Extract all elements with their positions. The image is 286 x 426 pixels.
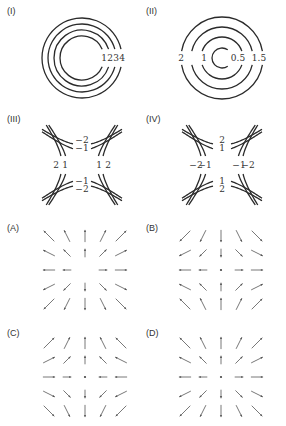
arrowhead-icon	[105, 269, 107, 271]
arrowhead-icon	[220, 396, 222, 398]
arrowhead-icon	[115, 376, 117, 378]
arrowhead-icon	[84, 415, 86, 417]
arrowhead-icon	[84, 289, 86, 291]
panel-II: (II) 210.51.5	[146, 6, 266, 99]
vector-arrow	[116, 231, 127, 242]
contour-labels-II: 210.51.5	[178, 53, 266, 63]
contour-level-label: 1	[219, 143, 225, 153]
contour-level-label: −2	[241, 160, 254, 170]
arrowhead-icon	[241, 269, 243, 271]
panel-label-B: (B)	[146, 223, 158, 233]
arrowhead-icon	[220, 283, 222, 285]
arrowhead-icon	[84, 230, 86, 232]
contour-level-label: 1	[62, 160, 68, 170]
arrowhead-icon	[220, 415, 222, 417]
center-dot	[220, 376, 222, 378]
vector-arrow	[180, 299, 191, 310]
arrowhead-icon	[125, 269, 127, 271]
arrowhead-icon	[199, 376, 201, 378]
panel-B: (B)	[146, 223, 263, 310]
panel-label-III: (III)	[7, 114, 21, 124]
vector-arrow	[180, 231, 191, 242]
arrowhead-icon	[53, 376, 55, 378]
center-dot	[84, 376, 86, 378]
panel-label-A: (A)	[7, 223, 19, 233]
vector-arrow	[180, 406, 191, 417]
panel-label-D: (D)	[146, 328, 159, 338]
arrowhead-icon	[69, 376, 71, 378]
contour-level-label: −1	[75, 143, 88, 153]
contour-hyperbolas-III: −2−1−1−22112	[42, 125, 122, 205]
panel-A: (A)	[7, 223, 127, 310]
panel-D: (D)	[146, 328, 263, 417]
panel-label-II: (II)	[146, 6, 157, 16]
vector-arrow	[252, 299, 263, 310]
contour-circle	[202, 65, 242, 79]
arrowhead-icon	[241, 376, 243, 378]
vector-arrow	[44, 406, 55, 417]
panel-C: (C)	[7, 328, 127, 417]
panel-III: (III) −2−1−1−22112	[7, 114, 122, 205]
vector-field-C	[43, 337, 127, 417]
arrowhead-icon	[220, 356, 222, 358]
arrowhead-icon	[84, 337, 86, 339]
arrowhead-icon	[199, 269, 201, 271]
contour-level-label: 1.5	[252, 53, 267, 63]
contour-circle	[202, 37, 242, 51]
contour-level-label: 2	[53, 160, 59, 170]
contour-circles-II	[182, 17, 263, 99]
contour-level-label: 4	[119, 53, 125, 63]
vector-arrow	[116, 338, 127, 349]
vector-arrow	[252, 338, 263, 349]
panel-I: (I) 1234	[7, 6, 125, 98]
arrowhead-icon	[99, 376, 101, 378]
panel-IV: (IV) 2112−2−1−1−2	[146, 114, 262, 205]
vector-field-A	[43, 230, 127, 310]
panel-label-I: (I)	[7, 6, 16, 16]
contour-level-label: 2	[105, 160, 111, 170]
arrowhead-icon	[84, 396, 86, 398]
arrowhead-icon	[220, 337, 222, 339]
contour-and-vector-field-figure: (I) 1234 (II) 210.51.5 (III) −2−1−1−2211…	[0, 0, 286, 426]
contour-level-label: 2	[178, 53, 184, 63]
panel-label-IV: (IV)	[146, 114, 161, 124]
arrowhead-icon	[179, 269, 181, 271]
vector-arrow	[116, 406, 127, 417]
arrowhead-icon	[43, 269, 45, 271]
vector-arrow	[44, 299, 55, 310]
contour-level-label: −1	[198, 160, 211, 170]
arrowhead-icon	[84, 308, 86, 310]
contour-circle	[60, 36, 102, 80]
vector-field-B	[179, 230, 263, 310]
contour-level-label: 2	[219, 184, 225, 194]
arrowhead-icon	[220, 240, 222, 242]
contour-level-label: 1	[101, 53, 107, 63]
contour-level-label: 0.5	[231, 53, 246, 63]
panel-label-C: (C)	[7, 328, 20, 338]
arrowhead-icon	[220, 255, 222, 257]
center-dot	[220, 269, 222, 271]
contour-labels-I: 1234	[101, 53, 125, 63]
contour-level-label: 1	[201, 53, 207, 63]
vector-arrow	[252, 231, 263, 242]
arrowhead-icon	[84, 249, 86, 251]
arrowhead-icon	[261, 376, 263, 378]
vector-arrow	[44, 231, 55, 242]
arrowhead-icon	[261, 269, 263, 271]
contour-hyperbolas-IV: 2112−2−1−1−2	[182, 125, 262, 205]
contour-level-label: −2	[75, 184, 88, 194]
arrowhead-icon	[220, 298, 222, 300]
vector-arrow	[116, 299, 127, 310]
vector-field-D	[179, 337, 263, 417]
contour-circle	[212, 48, 228, 68]
contour-level-label: 2	[107, 53, 113, 63]
arrowhead-icon	[63, 269, 65, 271]
arrowhead-icon	[179, 376, 181, 378]
vector-arrow	[44, 338, 55, 349]
contour-level-label: 1	[96, 160, 102, 170]
vector-arrow	[252, 406, 263, 417]
arrowhead-icon	[84, 356, 86, 358]
vector-arrow	[180, 338, 191, 349]
